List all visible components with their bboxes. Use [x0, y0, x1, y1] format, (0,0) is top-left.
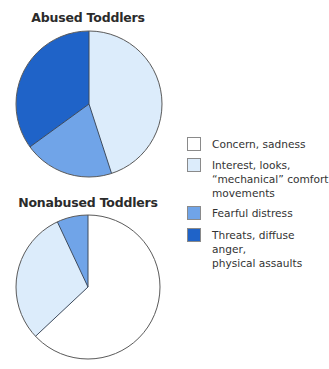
- legend-swatch-fearful: [187, 206, 201, 220]
- nonabused-toddlers-title: Nonabused Toddlers: [0, 195, 176, 210]
- legend-swatch-interest: [187, 158, 201, 172]
- legend-label-threats: Threats, diffuse anger, physical assault…: [212, 228, 329, 270]
- abused-toddlers-pie-chart: [15, 30, 163, 178]
- nonabused-toddlers-pie-chart: [15, 214, 161, 360]
- legend-label-interest: Interest, looks, “mechanical” comfort mo…: [212, 158, 329, 200]
- legend-swatch-threats: [187, 228, 201, 242]
- abused-toddlers-title: Abused Toddlers: [0, 10, 176, 25]
- legend-label-fearful: Fearful distress: [212, 206, 329, 220]
- legend-label-concern: Concern, sadness: [212, 137, 329, 151]
- legend-swatch-concern: [187, 137, 201, 151]
